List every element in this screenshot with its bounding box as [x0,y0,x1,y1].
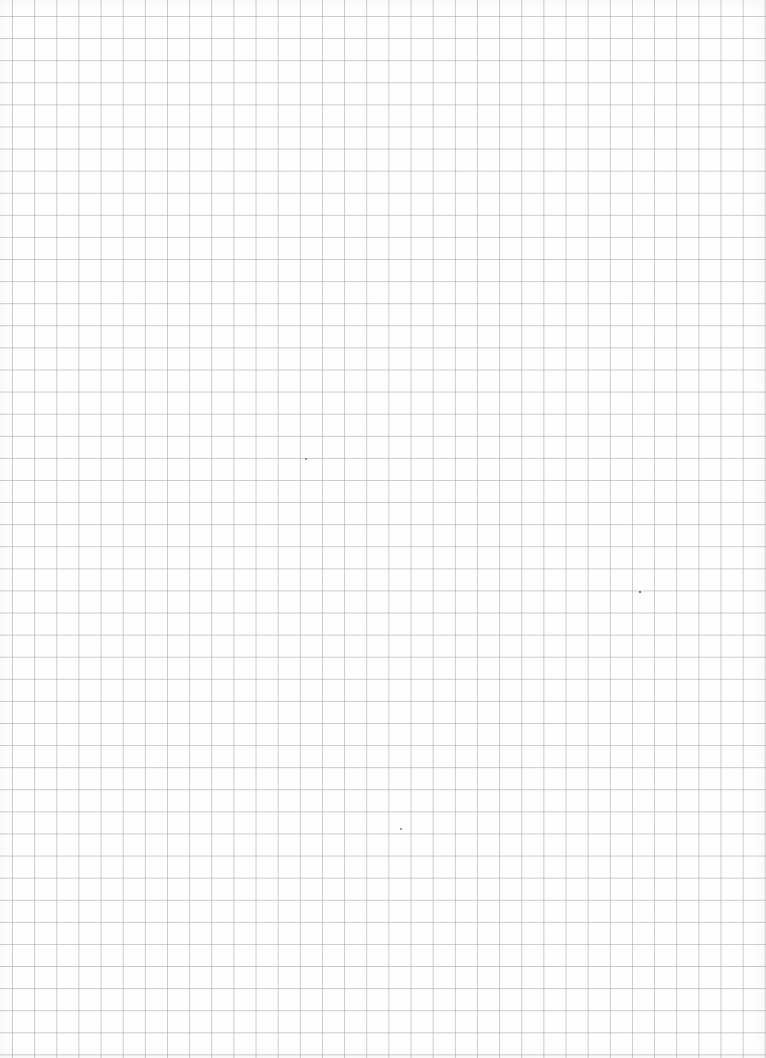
graph-paper-sheet [0,0,766,1058]
paper-speck [639,591,641,593]
paper-speck [305,458,307,460]
paper-speck [400,828,402,830]
